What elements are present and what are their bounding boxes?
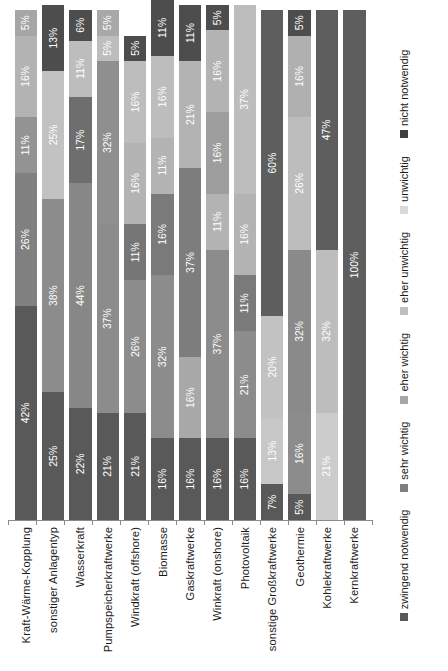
bar-segment[interactable]: 16% [206,112,228,194]
legend-item[interactable]: eher wichtig [398,333,410,404]
legend-item[interactable]: eher unwichtig [398,232,410,315]
bar-segment[interactable]: 32% [151,275,173,438]
bar-segment[interactable]: 7% [261,484,283,520]
bar-row[interactable]: 25%38%25%13% [39,10,66,520]
bar-row[interactable]: 21%32%47% [313,10,340,520]
bar-segment[interactable]: 16% [206,438,228,520]
bar-segment[interactable]: 32% [316,250,338,413]
bar-segment[interactable]: 5% [288,10,310,36]
bar-row[interactable]: 21%26%11%16%16%5% [122,10,149,520]
bar-segment[interactable]: 5% [124,36,146,62]
bar-segment[interactable]: 5% [97,36,119,62]
bar-segment[interactable]: 44% [69,183,91,407]
bar-segment[interactable]: 16% [151,194,173,276]
category-label: Biomasse [149,527,176,671]
legend-item[interactable]: sehr wichtig [398,422,410,492]
bar-segment[interactable]: 5% [15,10,37,36]
bar-segment[interactable]: 32% [288,250,310,413]
bar-segment[interactable]: 38% [42,199,64,393]
bar-segment[interactable]: 21% [179,61,201,168]
bar-segment[interactable]: 6% [69,10,91,41]
bar-segment[interactable]: 16% [179,438,201,520]
bar-segment[interactable]: 13% [42,5,64,71]
bar-segment[interactable]: 16% [124,143,146,225]
bar-row[interactable]: 100% [341,10,368,520]
segment-value-label: 42% [20,403,31,424]
legend-item[interactable]: zwingend notwendig [398,510,410,622]
bar-row[interactable]: 16%37%11%16%16%5% [204,10,231,520]
bar-segment[interactable]: 37% [179,168,201,357]
bar-segment[interactable]: 11% [15,117,37,173]
bar-segment[interactable]: 11% [151,138,173,194]
segment-value-label: 26% [130,336,141,357]
bar-segment[interactable]: 100% [343,10,365,520]
bar-segment[interactable]: 42% [15,306,37,520]
bar-segment[interactable]: 32% [97,61,119,224]
segment-value-label: 37% [102,308,113,329]
bar-segment[interactable]: 21% [124,413,146,520]
bar-row[interactable]: 16%21%11%16%37% [231,10,258,520]
bar-segment[interactable]: 20% [261,316,283,418]
segment-value-label: 5% [102,15,113,30]
segment-value-label: 32% [321,321,332,342]
bar-segment[interactable]: 26% [15,173,37,306]
segment-value-label: 16% [130,91,141,112]
bar-segment[interactable]: 16% [151,56,173,138]
bar-row[interactable]: 16%16%37%21%11% [176,10,203,520]
bar-segment[interactable]: 60% [261,10,283,316]
axis-tick [92,520,93,525]
bar-segment[interactable]: 25% [42,71,64,199]
bar-segment[interactable]: 37% [234,5,256,194]
bar-segment[interactable]: 21% [234,331,256,438]
bar-row[interactable]: 5%16%32%26%16%5% [286,10,313,520]
bar-segment[interactable]: 11% [179,5,201,61]
segment-value-label: 47% [321,119,332,140]
bar-row[interactable]: 16%32%16%11%16%11% [149,10,176,520]
bar-row[interactable]: 42%26%11%16%5% [12,10,39,520]
segment-value-label: 26% [20,229,31,250]
legend-item[interactable]: nicht notwendig [398,50,410,138]
segment-value-label: 5% [294,500,305,515]
bar-segment[interactable]: 13% [261,418,283,484]
bar-segment[interactable]: 16% [151,438,173,520]
bar-segment[interactable]: 16% [234,194,256,276]
segment-value-label: 16% [130,173,141,194]
bar-segment[interactable]: 26% [124,280,146,413]
bar-segment[interactable]: 11% [124,224,146,280]
bar-segment[interactable]: 37% [206,250,228,439]
bar-segment[interactable]: 16% [288,36,310,118]
segment-value-label: 21% [239,374,250,395]
segment-value-label: 11% [157,156,168,176]
bar-segment[interactable]: 21% [316,413,338,520]
bar-segment[interactable]: 16% [15,36,37,118]
bar-segment[interactable]: 26% [288,117,310,250]
bar-segment[interactable]: 16% [179,357,201,439]
bar-segment[interactable]: 5% [288,495,310,521]
bar-row[interactable]: 22%44%17%11%6% [67,10,94,520]
bar-row[interactable]: 7%13%20%60% [259,10,286,520]
legend-item[interactable]: unwichtig [398,156,410,214]
bar-segment[interactable]: 17% [69,97,91,184]
bar-segment[interactable]: 11% [234,275,256,331]
bar-segment[interactable]: 5% [206,5,228,31]
legend-label: zwingend notwendig [398,510,410,610]
bar-segment[interactable]: 5% [97,10,119,36]
segment-value-label: 25% [48,125,59,146]
bar-segment[interactable]: 47% [316,10,338,250]
bar-segment[interactable]: 11% [151,0,173,56]
bar-segment[interactable]: 16% [206,30,228,112]
bar-segment[interactable]: 22% [69,408,91,520]
bar-segment[interactable]: 16% [288,413,310,495]
bar-segment[interactable]: 25% [42,393,64,521]
bar-segment[interactable]: 16% [234,438,256,520]
stacked-bar: 25%38%25%13% [42,10,64,520]
bar-segment[interactable]: 21% [97,413,119,520]
bar-segment[interactable]: 16% [124,61,146,143]
bar-segment[interactable]: 11% [69,41,91,97]
category-axis-line [8,520,372,521]
bar-segment[interactable]: 37% [97,224,119,413]
bar-segment[interactable]: 11% [206,194,228,250]
stacked-bar: 16%32%16%11%16%11% [151,10,173,520]
bar-row[interactable]: 21%37%32%5%5% [94,10,121,520]
segment-value-label: 37% [239,89,250,110]
